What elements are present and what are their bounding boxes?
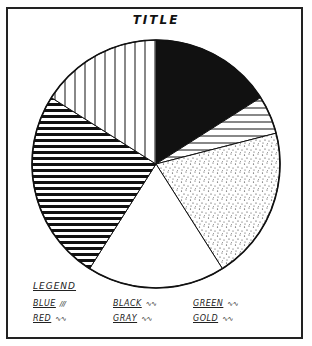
legend-label: BLACK [113, 299, 142, 308]
legend-label: GOLD [193, 314, 218, 323]
pie-chart [0, 0, 312, 346]
legend-row-1: BLUE ∕∕∕ BLACK ∿∿ GREEN ∿∿ [33, 299, 273, 308]
legend-row-2: RED ∿∿ GRAY ∿∿ GOLD ∿∿ [33, 314, 273, 323]
legend-title: LEGEND [33, 281, 76, 291]
legend-swatch-icon: ∿∿ [55, 315, 66, 323]
pie-slices [32, 40, 280, 288]
legend-item-black: BLACK ∿∿ [113, 299, 193, 308]
legend-swatch-icon: ∕∕∕ [60, 300, 66, 308]
legend-swatch-icon: ∿∿ [222, 315, 233, 323]
legend-swatch-icon: ∿∿ [227, 300, 238, 308]
legend-swatch-icon: ∿∿ [146, 300, 157, 308]
legend-item-gray: GRAY ∿∿ [113, 314, 193, 323]
legend-item-red: RED ∿∿ [33, 314, 113, 323]
legend-item-gold: GOLD ∿∿ [193, 314, 273, 323]
legend-item-blue: BLUE ∕∕∕ [33, 299, 113, 308]
legend-label: GRAY [113, 314, 137, 323]
legend-swatch-icon: ∿∿ [141, 315, 152, 323]
legend-label: RED [33, 314, 51, 323]
legend-label: GREEN [193, 299, 223, 308]
legend-item-green: GREEN ∿∿ [193, 299, 273, 308]
legend-label: BLUE [33, 299, 56, 308]
